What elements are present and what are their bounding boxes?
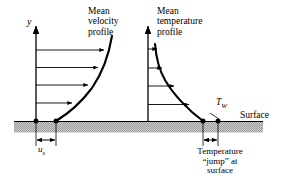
mean-temperature-profile-label: Mean temperature profile — [157, 6, 202, 37]
surface-label: Surface — [240, 110, 269, 120]
y-axis-label: y — [27, 17, 31, 28]
mean-velocity-curve — [56, 36, 112, 121]
wall-temperature-subscript: W — [221, 102, 227, 110]
surface-band — [14, 122, 263, 133]
temperature-jump-caption: Temperature “jump” at surface — [180, 147, 260, 176]
wall-temperature-leader — [210, 113, 219, 119]
wall-temperature-label: TW — [216, 97, 227, 110]
mean-velocity-profile-label: Mean velocity profile — [88, 6, 119, 37]
slip-velocity-subscript: s — [43, 149, 46, 156]
boundary-layer-diagram: y Mean velocity profile Mean temperature… — [0, 0, 281, 188]
slip-velocity-label: us — [38, 145, 45, 156]
mean-temperature-curve — [155, 44, 203, 121]
